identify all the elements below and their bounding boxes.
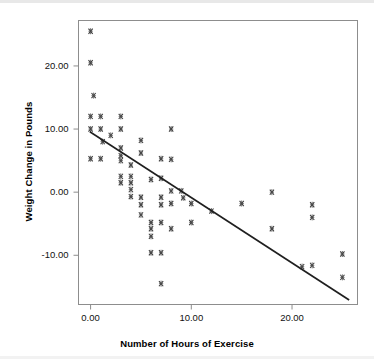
data-point [310, 202, 314, 208]
y-tick-label: -10.00 [17, 249, 69, 260]
x-tick-label: 10.00 [166, 312, 216, 323]
data-point [340, 251, 344, 257]
data-point [119, 126, 123, 132]
data-point [149, 177, 153, 183]
data-point [88, 113, 92, 119]
data-point [88, 126, 92, 132]
data-point [240, 201, 244, 207]
data-point [270, 189, 274, 195]
data-point [149, 219, 153, 225]
data-point [139, 202, 143, 208]
x-tick-label: 0.00 [66, 312, 116, 323]
data-point [159, 250, 163, 256]
data-point [129, 173, 133, 179]
data-point [109, 132, 113, 138]
data-point [159, 202, 163, 208]
data-point [129, 162, 133, 168]
data-point [139, 150, 143, 156]
data-point [139, 194, 143, 200]
y-axis-title: Weight Change in Pounds [23, 87, 34, 237]
data-point [340, 274, 344, 280]
data-point [119, 173, 123, 179]
data-point [270, 226, 274, 232]
data-point [159, 194, 163, 200]
data-point [129, 187, 133, 193]
y-tick-label: 10.00 [17, 123, 69, 134]
plot-canvas [0, 0, 374, 359]
data-point [119, 113, 123, 119]
data-point [169, 226, 173, 232]
data-point [169, 201, 173, 207]
data-point [159, 281, 163, 287]
data-point [88, 156, 92, 162]
data-point [119, 180, 123, 186]
y-tick-label: 20.00 [17, 60, 69, 71]
data-point [99, 156, 103, 162]
data-point [310, 214, 314, 220]
y-tick-label: 0.00 [17, 186, 69, 197]
data-point [139, 212, 143, 218]
data-point [149, 233, 153, 239]
data-point [129, 194, 133, 200]
data-point [92, 93, 96, 99]
data-point [119, 158, 123, 164]
data-point [169, 156, 173, 162]
y-axis-ticks [74, 66, 79, 255]
data-point [88, 60, 92, 66]
data-point [159, 219, 163, 225]
data-point [169, 188, 173, 194]
x-tick-label: 20.00 [267, 312, 317, 323]
data-point [99, 113, 103, 119]
data-point [149, 226, 153, 232]
data-point [99, 126, 103, 132]
data-point [88, 28, 92, 34]
data-point [189, 219, 193, 225]
data-point [181, 195, 185, 201]
data-point [169, 126, 173, 132]
data-point [139, 137, 143, 143]
data-point [159, 156, 163, 162]
x-axis-ticks [91, 305, 292, 310]
data-point [189, 201, 193, 207]
x-axis-title: Number of Hours of Exercise [0, 338, 374, 349]
scatter-plot-figure: Weight Change in Pounds Number of Hours … [0, 0, 374, 359]
data-point [129, 180, 133, 186]
data-point [149, 250, 153, 256]
data-point [310, 262, 314, 268]
